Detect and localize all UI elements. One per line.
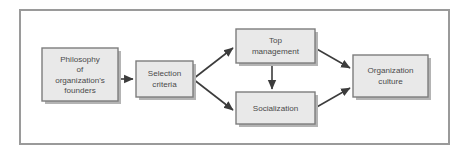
- node-philosophy[interactable]: Philosophy of organization's founders: [42, 48, 121, 104]
- node-selection-criteria[interactable]: Selection criteria: [136, 61, 196, 100]
- node-socialization[interactable]: Socialization: [236, 92, 318, 127]
- node-philosophy-line-2: of: [77, 65, 85, 74]
- node-philosophy-line-3: organization's: [55, 76, 105, 85]
- node-selection-criteria-line-1: Selection: [148, 69, 181, 78]
- connector-selection-to-top-management: [193, 48, 233, 79]
- node-selection-criteria-line-2: criteria: [152, 80, 177, 89]
- connector-socialization-to-culture: [315, 88, 350, 108]
- node-organization-culture[interactable]: Organization culture: [353, 55, 431, 100]
- node-philosophy-line-4: founders: [64, 86, 96, 95]
- node-top-management[interactable]: Top management: [236, 29, 318, 66]
- node-organization-culture-line-1: Organization: [368, 66, 414, 75]
- node-philosophy-line-1: Philosophy: [60, 55, 101, 64]
- node-top-management-line-2: management: [252, 47, 300, 56]
- node-organization-culture-line-2: culture: [378, 77, 403, 86]
- node-top-management-box[interactable]: [236, 29, 315, 63]
- connector-selection-to-socialization: [193, 79, 233, 110]
- connector-top-management-to-culture: [315, 48, 350, 68]
- diagram-canvas: Philosophy of organization's founders Se…: [0, 0, 468, 155]
- node-socialization-line-1: Socialization: [253, 104, 298, 113]
- organization-culture-diagram: Philosophy of organization's founders Se…: [0, 0, 468, 155]
- node-top-management-line-1: Top: [269, 36, 283, 45]
